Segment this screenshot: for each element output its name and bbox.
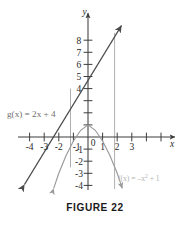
function-label-g: g(x) = 2x + 4 xyxy=(7,109,56,119)
y-tick-label--3: -3 xyxy=(75,169,83,179)
x-tick-label-1: 1 xyxy=(100,142,105,152)
figure-container: -4 -3 -2 -1 1 2 3 0 8 7 6 5 4 -1 -2 -3 -… xyxy=(0,0,190,233)
y-tick-label-5: 5 xyxy=(76,72,81,82)
origin-label: 0 xyxy=(91,138,96,148)
figure-caption: FIGURE 22 xyxy=(8,201,183,213)
x-tick-label-3: 3 xyxy=(129,142,134,152)
coordinate-plot: -4 -3 -2 -1 1 2 3 0 8 7 6 5 4 -1 -2 -3 -… xyxy=(0,0,190,200)
y-tick-labels: 8 7 6 5 4 -1 -2 -3 -4 xyxy=(75,36,83,191)
x-tick-label--3: -3 xyxy=(40,142,48,152)
y-tick-label-8: 8 xyxy=(76,36,81,46)
function-label-f-main: f(x) = –x xyxy=(118,174,145,183)
y-tick-label--2: -2 xyxy=(75,157,83,167)
svg-text:f(x) = –x2 + 1: f(x) = –x2 + 1 xyxy=(118,173,160,183)
plot-svg: -4 -3 -2 -1 1 2 3 0 8 7 6 5 4 -1 -2 -3 -… xyxy=(0,0,190,200)
x-tick-label--4: -4 xyxy=(26,142,34,152)
line-curve-g xyxy=(25,26,122,185)
axes xyxy=(18,13,175,190)
y-tick-label-7: 7 xyxy=(76,48,81,58)
x-tick-label--2: -2 xyxy=(55,142,63,152)
y-tick-label-6: 6 xyxy=(76,60,81,70)
x-axis-label: x xyxy=(169,139,175,149)
y-tick-label-4: 4 xyxy=(76,84,81,94)
y-axis-label: y xyxy=(81,7,87,17)
y-tick-label--1: -1 xyxy=(75,145,83,155)
x-tick-label-2: 2 xyxy=(115,142,120,152)
function-label-f: f(x) = –x2 + 1 xyxy=(118,173,160,183)
y-tick-label--4: -4 xyxy=(75,181,83,191)
function-label-f-tail: + 1 xyxy=(148,174,160,183)
